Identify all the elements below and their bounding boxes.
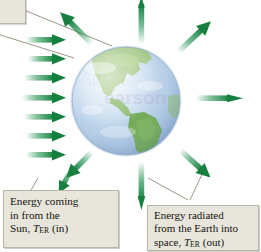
incoming-solar-arrow — [24, 72, 66, 83]
greenland — [150, 40, 162, 52]
caption-sun: Energy coming in from the Sun, TER (in) — [3, 190, 119, 248]
caption-sun-subscript: ER — [39, 226, 49, 235]
outgoing-radiation-arrow — [173, 16, 215, 57]
outgoing-radiation-arrow — [138, 0, 144, 44]
leader-line — [0, 33, 74, 58]
caption-sun-line2: in from the — [10, 209, 113, 223]
outgoing-radiation-arrow — [175, 145, 215, 183]
caption-sun-prefix: Sun, — [10, 222, 33, 234]
outgoing-radiation-arrow — [138, 162, 146, 210]
earth-globe: earson uction — [71, 40, 183, 157]
caption-sun-line1: Energy coming — [10, 195, 113, 209]
caption-earth: Energy radiated from the Earth into spac… — [147, 205, 259, 251]
outgoing-radiation-arrow — [196, 94, 243, 102]
caption-sun-line3: Sun, TER (in) — [10, 222, 113, 238]
incoming-solar-arrow — [26, 130, 66, 141]
incoming-solar-arrow — [28, 53, 66, 64]
caption-box-partial — [0, 0, 26, 24]
caption-sun-suffix: (in) — [49, 222, 68, 234]
leader-line — [148, 178, 188, 200]
caption-earth-line1: Energy radiated — [154, 209, 254, 222]
caption-earth-subscript: ER — [190, 240, 200, 249]
incoming-solar-arrow — [24, 111, 66, 122]
caption-earth-line2: from the Earth into — [154, 222, 254, 235]
incoming-solar-arrow — [26, 149, 66, 160]
incoming-solar-arrow — [22, 92, 66, 103]
outgoing-radiation-arrow — [55, 7, 96, 48]
caption-earth-prefix: space, — [154, 236, 184, 248]
caption-earth-line3: space, TER (out) — [154, 236, 254, 251]
incoming-solar-arrow — [26, 34, 66, 45]
caption-earth-suffix: (out) — [200, 236, 224, 248]
earth-energy-balance-diagram: earson uction — [0, 0, 261, 252]
